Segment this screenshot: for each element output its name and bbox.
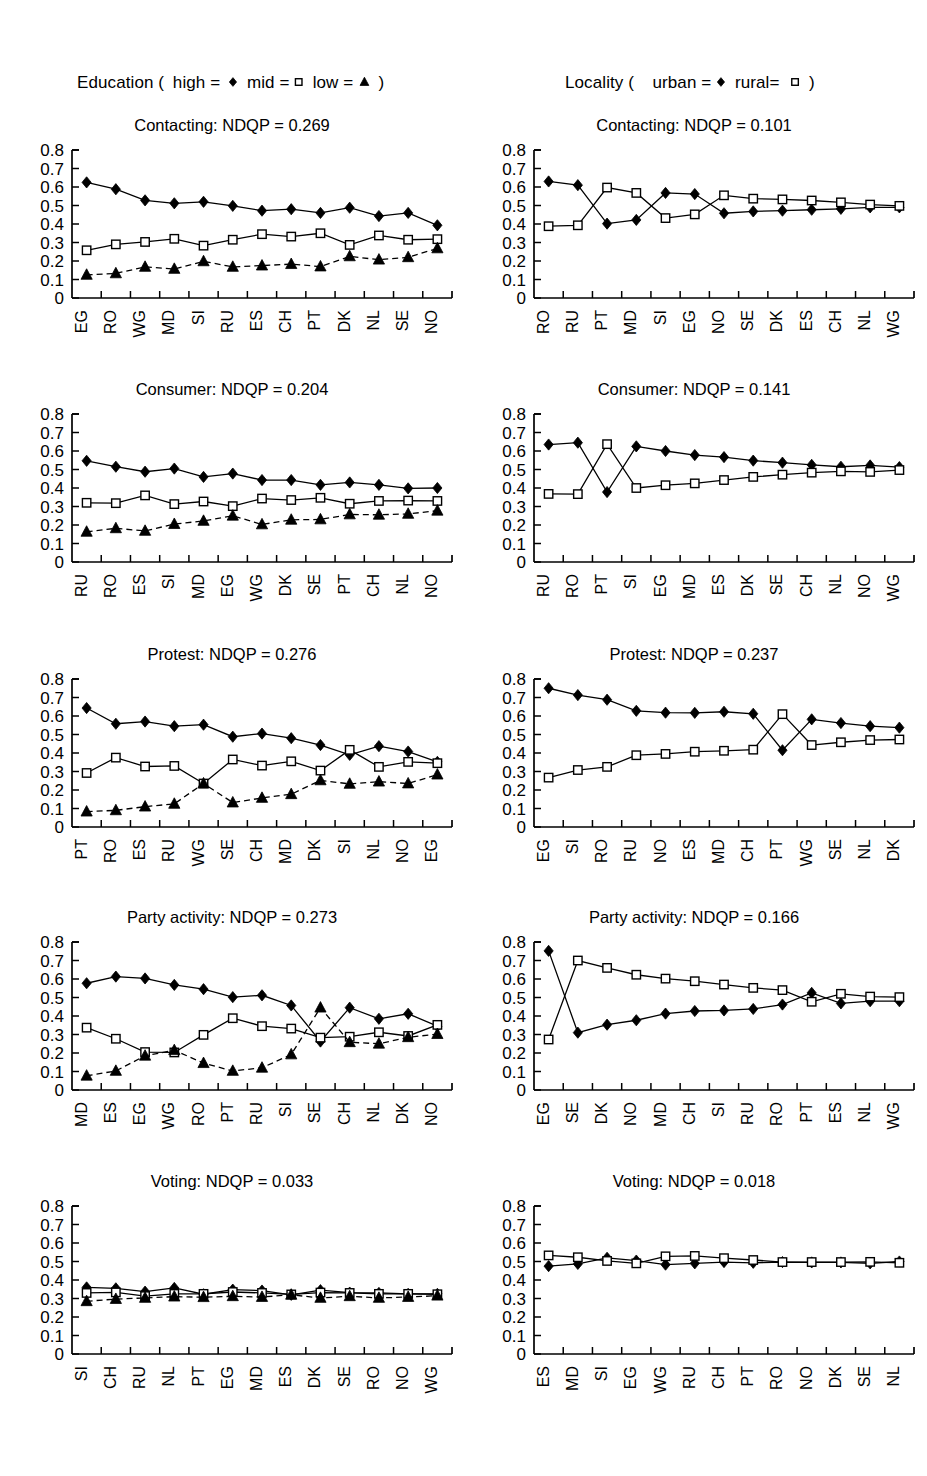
x-tick-label: MD bbox=[73, 1102, 90, 1127]
x-tick-label: DK bbox=[306, 839, 323, 862]
data-point-diamond bbox=[111, 718, 120, 729]
data-point-triangle bbox=[286, 788, 297, 798]
x-tick-label: ES bbox=[131, 574, 148, 595]
x-tick-label: NL bbox=[885, 1366, 902, 1387]
x-tick-label: NL bbox=[394, 574, 411, 595]
x-tick-label: RU bbox=[535, 574, 552, 597]
y-tick-label: 0.2 bbox=[502, 1308, 526, 1327]
chart-panel-voting-locality: Voting: NDQP = 0.01800.10.20.30.40.50.60… bbox=[462, 1172, 926, 1432]
data-point-diamond bbox=[661, 445, 670, 456]
data-point-diamond bbox=[749, 206, 758, 217]
svg-text:Education (: Education ( bbox=[77, 73, 164, 92]
data-point-square bbox=[778, 710, 786, 718]
data-point-diamond bbox=[170, 979, 179, 990]
x-tick-label: MD bbox=[564, 1366, 581, 1391]
data-point-square bbox=[661, 481, 669, 489]
x-tick-label: ES bbox=[248, 310, 265, 331]
data-point-diamond bbox=[602, 1019, 611, 1030]
data-point-square bbox=[404, 236, 412, 244]
y-tick-label: 0.2 bbox=[40, 781, 64, 800]
data-point-square bbox=[895, 466, 903, 474]
y-tick-label: 0.5 bbox=[40, 726, 64, 745]
data-point-triangle bbox=[315, 1002, 326, 1012]
x-tick-label: EG bbox=[652, 574, 669, 597]
data-point-square bbox=[866, 468, 874, 476]
series-urban bbox=[544, 683, 904, 756]
x-tick-label: PT bbox=[336, 574, 353, 595]
data-point-diamond bbox=[433, 482, 442, 493]
data-point-square bbox=[778, 986, 786, 994]
x-tick-label: RO bbox=[768, 1102, 785, 1126]
chart-svg-protest-education: 00.10.20.30.40.50.60.70.8PTROESRUWGSECHM… bbox=[0, 667, 464, 889]
data-point-diamond bbox=[170, 463, 179, 474]
data-point-diamond bbox=[632, 705, 641, 716]
data-point-square bbox=[141, 238, 149, 246]
y-tick-label: 0.2 bbox=[502, 516, 526, 535]
x-tick-label: SE bbox=[827, 839, 844, 860]
y-tick-label: 0 bbox=[517, 1081, 526, 1100]
chart-title-party-activity-education: Party activity: NDQP = 0.273 bbox=[0, 908, 464, 927]
x-tick-label: EG bbox=[681, 310, 698, 333]
data-point-diamond bbox=[544, 683, 553, 694]
y-tick-label: 0.1 bbox=[502, 271, 526, 290]
chart-title-consumer-education: Consumer: NDQP = 0.204 bbox=[0, 380, 464, 399]
data-point-square bbox=[661, 750, 669, 758]
data-point-diamond bbox=[778, 999, 787, 1010]
data-point-diamond bbox=[690, 1005, 699, 1016]
y-tick-label: 0.3 bbox=[40, 763, 64, 782]
series-low bbox=[81, 242, 443, 279]
y-tick-label: 0.7 bbox=[502, 1216, 526, 1235]
x-tick-label: RU bbox=[219, 310, 236, 333]
y-tick-label: 0.2 bbox=[40, 516, 64, 535]
data-point-square bbox=[807, 196, 815, 204]
y-tick-label: 0.6 bbox=[502, 1234, 526, 1253]
y-tick-label: 0.8 bbox=[40, 933, 64, 952]
data-point-square bbox=[603, 763, 611, 771]
data-point-square bbox=[720, 476, 728, 484]
series-low bbox=[81, 505, 443, 537]
x-tick-label: ES bbox=[131, 839, 148, 860]
y-tick-label: 0.5 bbox=[502, 726, 526, 745]
y-tick-label: 0.5 bbox=[40, 197, 64, 216]
x-tick-label: PT bbox=[768, 839, 785, 860]
x-tick-label: DK bbox=[739, 574, 756, 597]
axes bbox=[534, 150, 914, 298]
data-point-diamond bbox=[749, 455, 758, 466]
data-point-square bbox=[258, 494, 266, 502]
data-point-diamond bbox=[257, 990, 266, 1001]
chart-title-protest-education: Protest: NDQP = 0.276 bbox=[0, 645, 464, 664]
data-point-triangle bbox=[198, 1057, 209, 1067]
data-point-diamond bbox=[404, 483, 413, 494]
y-tick-label: 0.4 bbox=[40, 1271, 64, 1290]
data-point-triangle bbox=[315, 774, 326, 784]
y-tick-label: 0.8 bbox=[502, 670, 526, 689]
x-tick-label: RU bbox=[622, 839, 639, 862]
axes bbox=[72, 679, 452, 827]
data-point-square bbox=[544, 490, 552, 498]
data-point-square bbox=[749, 194, 757, 202]
x-tick-label: MD bbox=[622, 310, 639, 335]
data-point-diamond bbox=[749, 1003, 758, 1014]
svg-text:high =: high = bbox=[173, 73, 220, 92]
data-point-diamond bbox=[257, 474, 266, 485]
data-point-square bbox=[749, 745, 757, 753]
data-point-square bbox=[895, 735, 903, 743]
data-point-diamond bbox=[345, 202, 354, 213]
data-point-triangle bbox=[344, 250, 355, 260]
x-tick-label: NO bbox=[394, 1366, 411, 1390]
series-low bbox=[81, 1289, 443, 1306]
svg-text:): ) bbox=[379, 73, 385, 92]
data-point-diamond bbox=[778, 205, 787, 216]
y-tick-label: 0 bbox=[55, 553, 64, 572]
data-point-diamond bbox=[140, 716, 149, 727]
x-tick-label: RU bbox=[73, 574, 90, 597]
data-point-square bbox=[837, 198, 845, 206]
axes bbox=[72, 414, 452, 562]
data-point-square bbox=[574, 1253, 582, 1261]
data-point-diamond bbox=[544, 945, 553, 956]
y-axis-ticks: 00.10.20.30.40.50.60.70.8 bbox=[502, 1197, 541, 1364]
data-point-diamond bbox=[374, 1013, 383, 1024]
y-tick-label: 0.3 bbox=[502, 234, 526, 253]
series-low bbox=[81, 1002, 443, 1081]
x-tick-label: CH bbox=[739, 839, 756, 862]
